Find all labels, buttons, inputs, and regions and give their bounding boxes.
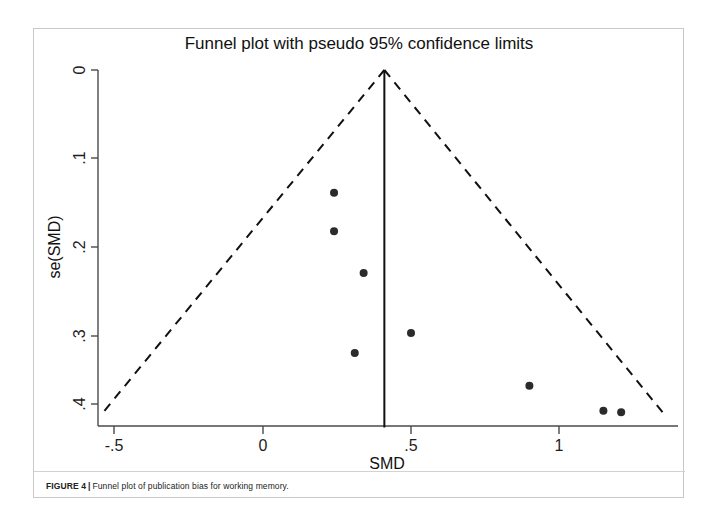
x-axis-ticklabels: -.5 0 .5 1	[105, 437, 564, 454]
data-point	[525, 382, 533, 390]
ci-limit-right-dashed-line	[384, 70, 662, 412]
caption-divider	[34, 471, 685, 472]
figure-number: FIGURE 4	[46, 481, 86, 491]
figure-caption: FIGURE 4|Funnel plot of publication bias…	[46, 481, 289, 491]
pseudo-95-confidence-limits	[103, 70, 662, 412]
x-axis-title: SMD	[369, 455, 405, 471]
y-axis: 0 .1 .2 .3 .4 se(SMD)	[46, 65, 98, 426]
x-axis-ticks	[114, 426, 559, 434]
y-ticklabel-2: .2	[71, 240, 88, 253]
funnel-plot-svg: Funnel plot with pseudo 95% confidence l…	[34, 29, 685, 471]
data-points	[330, 189, 625, 417]
data-point	[599, 407, 607, 415]
chart-title: Funnel plot with pseudo 95% confidence l…	[185, 34, 534, 53]
figure-card: Funnel plot with pseudo 95% confidence l…	[33, 28, 684, 498]
x-ticklabel-3: 1	[555, 437, 564, 454]
x-ticklabel-0: -.5	[105, 437, 124, 454]
y-ticklabel-3: .3	[71, 329, 88, 342]
data-point	[330, 227, 338, 235]
data-point	[330, 189, 338, 197]
funnel-plot: Funnel plot with pseudo 95% confidence l…	[34, 29, 685, 471]
data-point	[407, 329, 415, 337]
x-ticklabel-1: 0	[259, 437, 268, 454]
x-ticklabel-2: .5	[404, 437, 417, 454]
data-point	[617, 408, 625, 416]
y-axis-ticks	[91, 70, 98, 404]
data-point	[351, 349, 359, 357]
y-ticklabel-0: 0	[71, 65, 88, 74]
y-ticklabel-1: .1	[71, 151, 88, 164]
x-axis: -.5 0 .5 1 SMD	[98, 426, 678, 471]
y-axis-title: se(SMD)	[46, 215, 63, 278]
y-axis-ticklabels: 0 .1 .2 .3 .4	[71, 65, 88, 410]
caption-text: Funnel plot of publication bias for work…	[93, 481, 289, 491]
y-ticklabel-4: .4	[71, 397, 88, 410]
data-point	[360, 269, 368, 277]
ci-limit-left-dashed-line	[103, 70, 384, 412]
